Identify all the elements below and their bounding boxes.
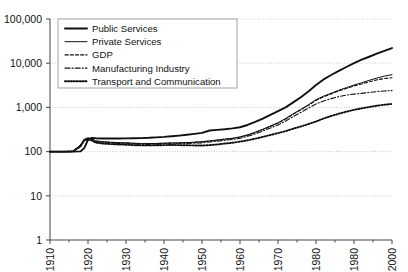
x-tick-label: 1950 [196,248,208,272]
x-tick-label: 1970 [272,248,284,272]
chart-legend: Public ServicesPrivate ServicesGDPManufa… [58,19,237,88]
y-axis [46,19,50,240]
legend-item-label: Private Services [92,36,162,47]
series-line [50,104,392,152]
chart-container: 100,00010,0001,000100101 191019201930194… [0,0,408,272]
legend-item-label: Manufacturing Industry [92,63,190,74]
legend-item-label: GDP [92,49,113,60]
x-tick-label: 1920 [82,248,94,272]
y-tick-label: 100 [24,145,42,157]
x-axis [50,240,392,244]
y-axis-tick-labels: 100,00010,0001,000100101 [4,13,42,246]
x-tick-label: 1940 [158,248,170,272]
x-axis-tick-labels: 1910192019301940195019601970198019802000 [44,248,398,272]
y-tick-label: 100,000 [4,13,42,25]
legend-item-label: Transport and Communication [92,76,221,87]
y-tick-label: 1,000 [16,101,42,113]
x-tick-label: 1930 [120,248,132,272]
x-tick-label: 1980 [348,248,360,272]
y-tick-label: 10,000 [10,57,42,69]
x-tick-label: 1960 [234,248,246,272]
x-tick-label: 2000 [386,248,398,272]
x-tick-label: 1910 [44,248,56,272]
x-tick-label: 1980 [310,248,322,272]
y-tick-label: 1 [36,234,42,246]
line-chart: 100,00010,0001,000100101 191019201930194… [0,0,408,272]
y-tick-label: 10 [30,190,42,202]
legend-item-label: Public Services [92,23,158,34]
series-line [50,91,392,152]
